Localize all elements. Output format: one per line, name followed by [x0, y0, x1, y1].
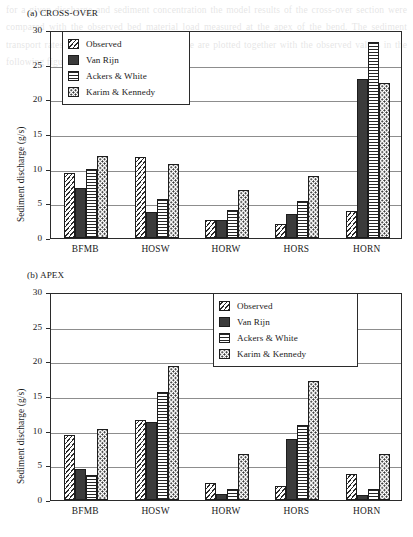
bar-bfmb-observed: [64, 435, 75, 500]
bar-hors-karim: [308, 176, 319, 238]
panel-title: (a) CROSS-OVER: [27, 8, 98, 18]
bar-hosw-ackers: [157, 392, 168, 500]
bar-horn-vanrijn: [357, 495, 368, 500]
bar-hosw-ackers: [157, 199, 168, 238]
bar-horw-ackers: [227, 210, 238, 238]
y-axis-tick: [46, 328, 50, 329]
y-axis-tick-label: 30: [16, 287, 42, 297]
x-axis-label-horn: HORN: [332, 506, 402, 516]
bar-horn-ackers: [368, 42, 379, 238]
bar-group: [121, 294, 191, 500]
legend-swatch-karim-icon: [219, 349, 230, 359]
legend-item-vanrijn: Van Rijn: [219, 314, 351, 330]
bar-hors-vanrijn: [286, 214, 297, 238]
bar-horw-ackers: [227, 489, 238, 500]
y-axis-tick-label: 30: [16, 25, 42, 35]
bar-hosw-observed: [135, 420, 146, 500]
bar-horw-observed: [205, 220, 216, 238]
x-axis-label-horw: HORW: [191, 506, 261, 516]
legend-swatch-observed-icon: [68, 39, 79, 49]
bar-hors-observed: [275, 486, 286, 500]
legend-item-vanrijn: Van Rijn: [68, 52, 183, 68]
legend-swatch-ackers-icon: [68, 71, 79, 81]
bar-group: [262, 32, 332, 238]
bar-hors-karim: [308, 381, 319, 500]
bar-hosw-karim: [168, 366, 179, 500]
bar-bfmb-ackers: [86, 475, 97, 500]
x-axis-label-hors: HORS: [261, 244, 331, 254]
bar-horw-vanrijn: [216, 494, 227, 500]
legend-label: Observed: [237, 301, 273, 311]
bar-horw-karim: [238, 190, 249, 238]
legend-item-ackers: Ackers & White: [219, 330, 351, 346]
y-axis-tick: [46, 501, 50, 502]
x-axis-label-bfmb: BFMB: [50, 244, 120, 254]
y-axis-tick: [46, 204, 50, 205]
legend-swatch-vanrijn-icon: [68, 55, 79, 65]
y-axis-tick: [46, 170, 50, 171]
bar-bfmb-karim: [97, 429, 108, 500]
chart-legend: ObservedVan RijnAckers & WhiteKarim & Ke…: [62, 31, 190, 105]
y-axis-tick: [46, 100, 50, 101]
y-axis-tick-label: 20: [16, 356, 42, 366]
legend-label: Ackers & White: [237, 333, 298, 343]
y-axis-tick-label: 5: [16, 460, 42, 470]
bar-hosw-observed: [135, 157, 146, 238]
legend-swatch-ackers-icon: [219, 333, 230, 343]
legend-label: Van Rijn: [86, 55, 119, 65]
bar-horn-observed: [346, 474, 357, 500]
bar-horn-karim: [379, 454, 390, 500]
y-axis-tick: [46, 362, 50, 363]
legend-label: Karim & Kennedy: [86, 87, 155, 97]
bar-horw-karim: [238, 454, 249, 500]
legend-item-karim: Karim & Kennedy: [68, 84, 183, 100]
bar-horn-ackers: [368, 489, 379, 500]
bar-horn-karim: [379, 83, 390, 238]
chart-panel-apex: (b) APEXSediment discharge (g/s)05101520…: [0, 265, 413, 537]
legend-item-karim: Karim & Kennedy: [219, 346, 351, 362]
bar-group: [333, 32, 403, 238]
y-axis-tick: [46, 31, 50, 32]
bar-bfmb-ackers: [86, 169, 97, 238]
legend-label: Karim & Kennedy: [237, 349, 306, 359]
y-axis-tick: [46, 432, 50, 433]
legend-swatch-karim-icon: [68, 87, 79, 97]
legend-item-ackers: Ackers & White: [68, 68, 183, 84]
bar-group: [192, 32, 262, 238]
y-axis-tick: [46, 239, 50, 240]
x-axis-label-horw: HORW: [191, 244, 261, 254]
x-axis-label-horn: HORN: [332, 244, 402, 254]
legend-label: Observed: [86, 39, 122, 49]
bar-hors-vanrijn: [286, 439, 297, 500]
y-axis-tick: [46, 66, 50, 67]
y-axis-tick-label: 0: [16, 495, 42, 505]
x-axis-label-hors: HORS: [261, 506, 331, 516]
panel-title: (b) APEX: [27, 270, 64, 280]
legend-label: Van Rijn: [237, 317, 270, 327]
bar-hors-ackers: [297, 201, 308, 238]
y-axis-tick-label: 0: [16, 233, 42, 243]
legend-swatch-observed-icon: [219, 301, 230, 311]
bar-horn-observed: [346, 211, 357, 238]
legend-item-observed: Observed: [68, 36, 183, 52]
bar-bfmb-karim: [97, 156, 108, 238]
y-axis-tick: [46, 397, 50, 398]
y-axis-tick: [46, 293, 50, 294]
bar-bfmb-vanrijn: [75, 469, 86, 500]
y-axis-tick-label: 15: [16, 391, 42, 401]
y-axis-tick-label: 10: [16, 426, 42, 436]
bar-hosw-karim: [168, 164, 179, 238]
chart-legend: ObservedVan RijnAckers & WhiteKarim & Ke…: [213, 293, 358, 367]
y-axis-tick-label: 25: [16, 60, 42, 70]
chart-panel-cross-over: (a) CROSS-OVERSediment discharge (g/s)05…: [0, 0, 413, 268]
legend-swatch-vanrijn-icon: [219, 317, 230, 327]
x-axis-label-hosw: HOSW: [120, 506, 190, 516]
bar-hors-observed: [275, 224, 286, 238]
y-axis-tick-label: 10: [16, 164, 42, 174]
legend-label: Ackers & White: [86, 71, 147, 81]
bar-horn-vanrijn: [357, 79, 368, 238]
y-axis-tick: [46, 135, 50, 136]
bar-bfmb-vanrijn: [75, 188, 86, 238]
y-axis-tick: [46, 466, 50, 467]
y-axis-tick-label: 15: [16, 129, 42, 139]
